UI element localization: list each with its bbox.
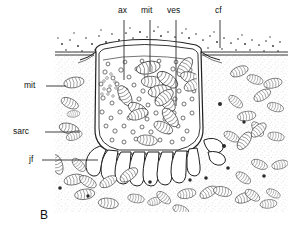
neuromuscular-junction-drawing (0, 0, 288, 233)
label-ves: ves (167, 6, 180, 15)
label-sarc: sarc (13, 127, 29, 136)
label-ax: ax (118, 6, 127, 15)
label-cf: cf (215, 6, 222, 15)
label-mit-left: mit (24, 81, 35, 90)
figure-canvas: ax mit ves cf mit sarc jf B (0, 0, 288, 233)
label-mit-top: mit (141, 6, 152, 15)
label-jf: jf (29, 155, 33, 164)
panel-letter: B (40, 208, 48, 222)
